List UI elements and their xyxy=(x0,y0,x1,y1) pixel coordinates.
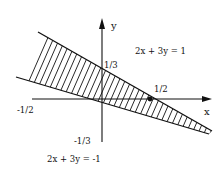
x-axis-arrow-icon xyxy=(202,96,212,102)
x-intercept-upper-label: 1/2 xyxy=(154,84,168,94)
x-intercept-lower-label: -1/2 xyxy=(17,105,34,115)
y-axis-arrow-icon xyxy=(99,18,105,29)
upper-boundary-line xyxy=(38,32,212,131)
hatched-band xyxy=(0,10,224,170)
y-axis-label: y xyxy=(110,20,117,31)
intercept-point xyxy=(148,97,153,102)
strip-region-diagram: y x 2x + 3y = 1 2x + 3y = -1 1/3 1/2 -1/… xyxy=(0,0,224,180)
y-intercept-lower-label: -1/3 xyxy=(74,136,91,146)
upper-line-equation: 2x + 3y = 1 xyxy=(135,46,186,56)
lower-line-equation: 2x + 3y = -1 xyxy=(47,154,101,164)
lower-boundary-line xyxy=(16,77,209,134)
y-intercept-upper-label: 1/3 xyxy=(104,60,118,70)
x-axis-label: x xyxy=(204,106,210,117)
